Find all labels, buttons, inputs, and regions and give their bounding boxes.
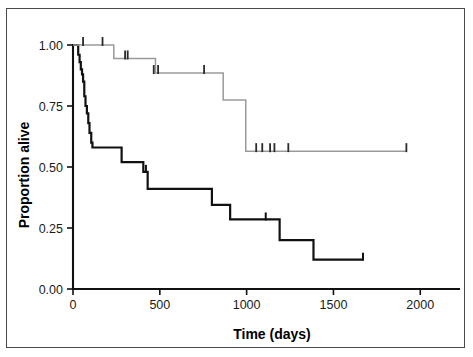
y-axis-tick-labels: 0.000.250.500.751.00 xyxy=(39,39,63,297)
x-tick-label: 500 xyxy=(149,298,170,312)
y-tick-label: 0.50 xyxy=(39,161,63,175)
x-tick-label: 0 xyxy=(70,298,77,312)
plot-area: 0.000.250.500.751.00 0500100015002000 Ti… xyxy=(7,9,466,349)
survival-curve-secondary xyxy=(73,45,406,151)
censor-marks-group xyxy=(83,37,406,261)
survival-curve-primary xyxy=(73,45,363,260)
y-axis-title: Proportion alive xyxy=(16,122,32,229)
y-tick-label: 1.00 xyxy=(39,39,63,53)
y-tick-label: 0.75 xyxy=(39,100,63,114)
x-axis-tick-labels: 0500100015002000 xyxy=(70,298,435,312)
x-axis-title: Time (days) xyxy=(233,326,311,342)
series-group xyxy=(73,45,406,260)
x-tick-label: 2000 xyxy=(406,298,434,312)
figure-frame: 0.000.250.500.751.00 0500100015002000 Ti… xyxy=(6,8,465,348)
survival-chart: 0.000.250.500.751.00 0500100015002000 Ti… xyxy=(7,9,466,349)
y-tick-label: 0.25 xyxy=(39,222,63,236)
x-tick-label: 1000 xyxy=(233,298,261,312)
x-tick-label: 1500 xyxy=(320,298,348,312)
y-tick-label: 0.00 xyxy=(39,283,63,297)
